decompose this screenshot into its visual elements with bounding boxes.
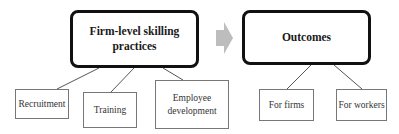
node-label: Firm-level skilling practices [85,24,185,54]
node-outcomes: Outcomes [242,10,371,65]
connector-practices-recruitment [57,68,99,89]
connector-outcomes-workers [334,65,362,89]
right-arrow-icon [216,22,233,54]
node-label: Recruitment [19,98,66,111]
node-recruitment: Recruitment [15,89,69,119]
node-label: For firms [269,99,305,112]
connector-practices-employee-development [163,68,183,80]
connector-practices-training [111,68,134,92]
node-training: Training [83,92,137,128]
node-label: Outcomes [282,30,331,45]
node-label: Employee development [164,92,220,118]
node-label: Training [94,104,126,117]
node-for-workers: For workers [336,89,387,121]
node-for-firms: For firms [259,89,314,121]
connector-outcomes-firms [287,65,311,89]
node-employee-development: Employee development [155,80,229,129]
node-firm-level-skilling-practices: Firm-level skilling practices [70,10,199,68]
node-label: For workers [338,99,384,112]
